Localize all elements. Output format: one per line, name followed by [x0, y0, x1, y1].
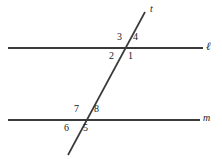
angle-label-8: 8 — [94, 104, 99, 114]
angle-label-4: 4 — [133, 32, 138, 42]
geometry-figure: ℓ m t 3 4 2 1 7 8 6 5 — [0, 0, 222, 159]
line-label-l: ℓ — [206, 41, 211, 51]
angle-label-5: 5 — [83, 123, 88, 133]
angle-label-1: 1 — [128, 51, 133, 61]
geometry-canvas — [0, 0, 222, 159]
angle-label-2: 2 — [109, 51, 114, 61]
angle-label-7: 7 — [74, 104, 79, 114]
line-label-t: t — [150, 4, 153, 14]
angle-label-3: 3 — [117, 32, 122, 42]
angle-label-6: 6 — [64, 123, 69, 133]
line-label-m: m — [203, 113, 210, 123]
